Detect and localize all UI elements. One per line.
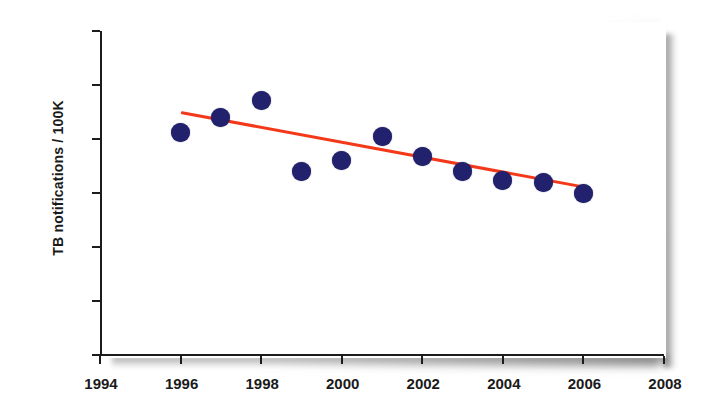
y-tick-mark (92, 138, 100, 140)
x-tick-mark (341, 356, 343, 364)
chart-figure: TB notifications / 100K 0255075100125150… (0, 0, 716, 417)
plot-right-edge (664, 31, 666, 356)
x-tick-label: 2008 (630, 375, 700, 392)
x-tick-label: 2000 (308, 375, 378, 392)
x-tick-mark (99, 356, 101, 364)
x-tick-mark (421, 356, 423, 364)
y-axis-title: TB notifications / 100K (50, 28, 66, 328)
x-tick-label: 2002 (388, 375, 458, 392)
plot-area (100, 22, 666, 358)
x-tick-label: 1996 (147, 375, 217, 392)
x-tick-label: 2006 (549, 375, 619, 392)
y-axis-line (100, 31, 102, 356)
x-tick-mark (502, 356, 504, 364)
y-tick-mark (92, 246, 100, 248)
y-tick-mark (92, 30, 100, 32)
x-tick-mark (663, 356, 665, 364)
y-tick-mark (92, 192, 100, 194)
y-tick-mark (92, 84, 100, 86)
x-tick-mark (180, 356, 182, 364)
x-tick-mark (582, 356, 584, 364)
y-tick-mark (92, 300, 100, 302)
x-axis-line (100, 354, 666, 356)
x-tick-label: 2004 (469, 375, 539, 392)
x-tick-label: 1998 (227, 375, 297, 392)
x-tick-mark (260, 356, 262, 364)
x-tick-label: 1994 (66, 375, 136, 392)
